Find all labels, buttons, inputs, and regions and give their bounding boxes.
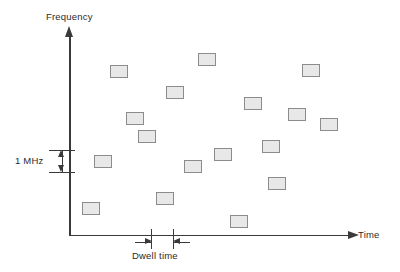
y-axis-arrow-icon	[65, 26, 73, 37]
y-axis-line	[69, 36, 71, 236]
hop-block	[320, 118, 338, 131]
hop-block	[156, 192, 174, 205]
frequency-span-arrow-down-icon	[58, 165, 64, 172]
hop-block	[184, 160, 202, 173]
x-axis-label: Time	[358, 229, 380, 240]
hop-block	[214, 148, 232, 161]
hop-block	[288, 108, 306, 121]
hop-block	[268, 177, 286, 190]
dwell-time-arrow-left-icon	[173, 238, 180, 244]
y-axis-label: Frequency	[46, 11, 93, 22]
hop-block	[244, 97, 262, 110]
frequency-span-label: 1 MHz	[15, 155, 43, 166]
hop-block	[138, 130, 156, 143]
hop-block	[166, 86, 184, 99]
hop-block	[94, 155, 112, 168]
frequency-hopping-diagram: Frequency Time 1 MHz Dwell time	[0, 0, 400, 272]
dwell-time-label: Dwell time	[132, 250, 178, 261]
hop-block	[230, 215, 248, 228]
x-axis-line	[69, 235, 354, 237]
dwell-time-arrow-right-icon	[145, 238, 152, 244]
frequency-span-arrow-up-icon	[58, 150, 64, 157]
hop-block	[302, 64, 320, 77]
hop-block	[82, 202, 100, 215]
frequency-span-tick-bottom	[49, 172, 75, 173]
hop-block	[110, 65, 128, 78]
hop-block	[262, 140, 280, 153]
hop-block	[126, 112, 144, 125]
hop-block	[198, 53, 216, 66]
